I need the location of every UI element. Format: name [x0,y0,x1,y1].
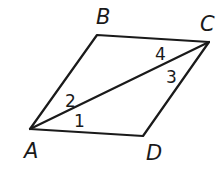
angle-label-3: 3 [166,67,177,87]
vertex-label-c: C [200,12,215,36]
angle-label-4: 4 [155,44,166,64]
vertex-label-a: A [22,139,38,163]
angle-label-1: 1 [74,111,85,131]
parallelogram-diagram: A B C D 1 2 3 4 [0,0,216,169]
vertex-label-b: B [96,5,110,29]
diagonal-ac [30,42,209,129]
vertex-label-d: D [146,141,162,165]
angle-label-2: 2 [65,91,76,111]
